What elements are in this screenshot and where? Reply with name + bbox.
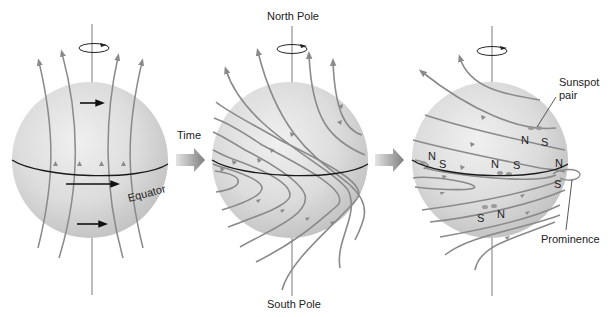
sunspot-marker-S: S — [513, 159, 520, 171]
sunspot-marker-S: S — [477, 212, 484, 224]
sunspot-marker-N: N — [521, 134, 529, 146]
time-label: Time — [177, 129, 201, 141]
prominence-leader — [566, 180, 572, 230]
sunspot-marker-N: N — [491, 158, 499, 170]
sunspot-marker-N: N — [497, 208, 505, 220]
sunspot-marker-S: S — [554, 178, 561, 190]
north-pole-label: North Pole — [267, 10, 319, 22]
panel-3: N S N S N S N S S N Sunspot pair Promine… — [412, 26, 600, 296]
sunspot-marker-S: S — [439, 158, 446, 170]
sunspot-pair-label: Sunspot — [559, 76, 599, 88]
time-arrow-2 — [375, 148, 404, 172]
sunspot-pair-label-line2: pair — [559, 89, 578, 101]
panel-2: North Pole South Pole — [212, 10, 368, 310]
sunspot-marker-N: N — [555, 157, 563, 169]
prominence-label: Prominence — [541, 233, 600, 245]
time-arrow: Time — [176, 129, 205, 172]
solar-magnetic-diagram: Equator Time North Pole South Pole — [0, 0, 610, 317]
sunspot-marker-S: S — [541, 136, 548, 148]
rotation-icon — [79, 43, 109, 53]
sun-sphere — [12, 82, 168, 238]
sunspot-marker-N: N — [428, 150, 436, 162]
south-pole-label: South Pole — [267, 298, 321, 310]
panel-1: Equator — [12, 24, 168, 295]
